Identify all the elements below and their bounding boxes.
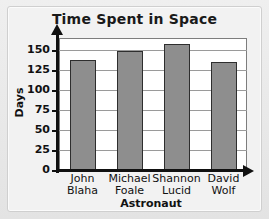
y-tick-label: 50 [4, 123, 50, 136]
y-tick-label: 25 [4, 143, 50, 156]
gridline [59, 50, 247, 51]
y-tick-mark [52, 170, 58, 172]
y-tick-mark [52, 150, 58, 152]
y-tick-mark [52, 90, 58, 92]
y-tick-label: 100 [4, 83, 50, 96]
y-tick-label: 75 [4, 103, 50, 116]
y-axis-title: Days [13, 73, 26, 133]
x-axis-title: Astronaut [56, 197, 246, 210]
y-tick-mark [52, 50, 58, 52]
bar [164, 44, 190, 170]
bar [211, 62, 237, 170]
y-tick-mark [52, 70, 58, 72]
bar [70, 60, 96, 170]
chart-figure: Time Spent in Space 0255075100125150 Day… [0, 0, 269, 219]
plot-area-wrapper [59, 38, 247, 170]
y-tick-mark [52, 110, 58, 112]
y-tick-label: 125 [4, 63, 50, 76]
y-tick-mark [52, 130, 58, 132]
x-tick-label-line: Wolf [194, 185, 254, 197]
y-tick-label: 150 [4, 43, 50, 56]
y-tick-label: 0 [4, 163, 50, 176]
x-tick-label: DavidWolf [194, 173, 254, 197]
y-axis-arrow-icon [51, 24, 63, 35]
bar [117, 51, 143, 170]
